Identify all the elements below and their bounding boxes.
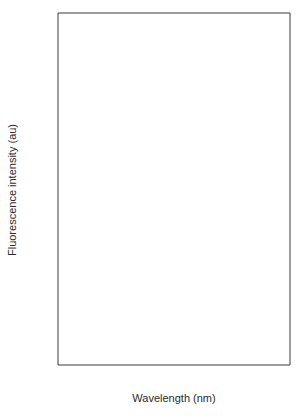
- fluorescence-spectra-chart: Wavelength (nm) Fluorescence intensity (…: [0, 0, 305, 418]
- x-axis-title: Wavelength (nm): [132, 392, 215, 404]
- axes-frame: [58, 13, 290, 365]
- y-axis-title: Fluorescence intensity (au): [6, 124, 18, 256]
- plot-frame: [58, 13, 290, 365]
- figure-container: Wavelength (nm) Fluorescence intensity (…: [0, 0, 305, 418]
